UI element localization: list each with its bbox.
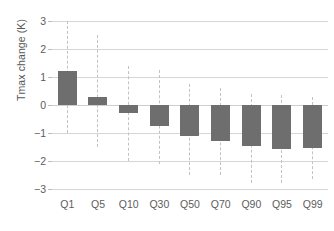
- x-axis-tick-label: Q1: [60, 198, 74, 210]
- bar: [58, 71, 77, 105]
- y-axis-tick-label: −3: [34, 183, 46, 195]
- x-axis-tick-label: Q90: [241, 198, 261, 210]
- y-axis-tick-mark: [48, 49, 52, 50]
- gridline: [52, 21, 328, 22]
- whisker-line: [128, 66, 129, 161]
- x-axis-tick-label: Q95: [272, 198, 292, 210]
- bar: [242, 105, 261, 146]
- y-axis-tick-mark: [48, 105, 52, 106]
- y-axis-tick-mark: [48, 189, 52, 190]
- x-axis-tick-label: Q30: [149, 198, 169, 210]
- bar: [180, 105, 199, 136]
- gridline: [52, 49, 328, 50]
- bar: [150, 105, 169, 126]
- y-axis-tick-mark: [48, 77, 52, 78]
- y-axis-tick-label: 3: [40, 15, 46, 27]
- whisker-line: [97, 35, 98, 147]
- y-axis-tick-label: −1: [34, 127, 46, 139]
- y-axis-tick-label: −2: [34, 155, 46, 167]
- y-axis-tick-mark: [48, 21, 52, 22]
- x-axis-tick-label: Q10: [119, 198, 139, 210]
- x-axis-tick-labels: Q1Q5Q10Q30Q50Q70Q90Q95Q99: [52, 198, 328, 218]
- bar: [272, 105, 291, 149]
- x-axis-tick-label: Q70: [211, 198, 231, 210]
- y-axis-tick-mark: [48, 133, 52, 134]
- chart-figure: Tmax change (K) 3210−1−2−3 Q1Q5Q10Q30Q50…: [0, 0, 334, 231]
- y-axis-tick-label: 0: [40, 99, 46, 111]
- x-axis-tick-label: Q99: [303, 198, 323, 210]
- y-axis-tick-label: 2: [40, 43, 46, 55]
- bar: [211, 105, 230, 141]
- bar: [119, 105, 138, 113]
- gridline: [52, 189, 328, 190]
- x-axis-tick-label: Q5: [91, 198, 105, 210]
- y-axis-tick-mark: [48, 161, 52, 162]
- y-axis-tick-label: 1: [40, 71, 46, 83]
- gridline: [52, 77, 328, 78]
- plot-area: 3210−1−2−3: [52, 21, 328, 189]
- x-axis-tick-label: Q50: [180, 198, 200, 210]
- y-axis-title: Tmax change (K): [15, 0, 27, 125]
- bar: [88, 97, 107, 105]
- bar: [303, 105, 322, 148]
